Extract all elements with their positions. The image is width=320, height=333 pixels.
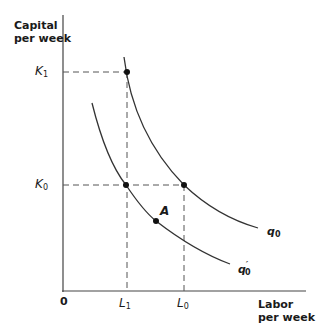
x-tick-l1: L1 <box>119 296 131 311</box>
y-tick-k1-base: K <box>35 64 43 78</box>
y-tick-k0-sub: 0 <box>43 183 48 192</box>
y-tick-k0-base: K <box>35 177 43 191</box>
isoquant-q0-curve <box>124 57 258 228</box>
x-axis-title: Labor per week <box>258 298 315 324</box>
y-tick-k0: K0 <box>35 177 48 192</box>
isoquant-diagram <box>0 0 320 333</box>
curve-label-q0-base: q <box>267 225 275 238</box>
point-l0-k0 <box>181 182 187 188</box>
x-tick-l0-sub: 0 <box>184 302 189 311</box>
origin-label: 0 <box>60 295 68 308</box>
x-axis-title-line2: per week <box>258 311 315 324</box>
point-l1-k1 <box>124 69 130 75</box>
x-tick-l0: L0 <box>177 296 189 311</box>
y-tick-k1: K1 <box>35 64 48 79</box>
y-tick-k1-sub: 1 <box>43 70 48 79</box>
point-a <box>153 218 159 224</box>
y-axis-title-line2: per week <box>14 32 71 45</box>
y-axis-title: Capital per week <box>14 19 71 45</box>
isoquant-q0-prime-curve <box>92 103 230 264</box>
curve-label-q0-sub: 0 <box>275 230 281 239</box>
curve-label-q0: q0 <box>267 225 280 239</box>
x-tick-l1-sub: 1 <box>126 302 131 311</box>
curve-label-q0-prime-sub: 0 <box>245 268 251 277</box>
x-axis-title-line1: Labor <box>258 298 315 311</box>
point-a-label: A <box>160 204 169 218</box>
y-axis-title-line1: Capital <box>14 19 71 32</box>
x-tick-l0-base: L <box>177 296 184 310</box>
curve-label-q0-prime: q′0 <box>238 261 251 277</box>
x-tick-l1-base: L <box>119 296 126 310</box>
point-l1-k0 <box>123 182 129 188</box>
